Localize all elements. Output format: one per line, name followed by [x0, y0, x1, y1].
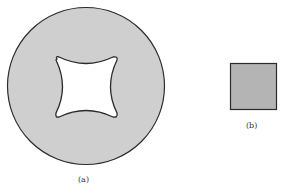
- figure-b-label: (b): [246, 121, 257, 130]
- figure-b-square: [231, 64, 277, 110]
- figure-a-shape: [8, 8, 165, 165]
- concave-square-hole: [56, 57, 117, 117]
- figure-a-label: (a): [78, 175, 89, 184]
- diagram-canvas: [0, 0, 289, 187]
